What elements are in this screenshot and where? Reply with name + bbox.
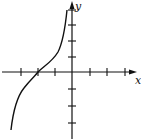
function-curve [11, 10, 67, 130]
y-axis-arrow-icon [70, 1, 75, 9]
x-axis-label: x [135, 74, 141, 87]
function-graph: y x [0, 0, 141, 139]
y-axis-label: y [74, 0, 82, 13]
